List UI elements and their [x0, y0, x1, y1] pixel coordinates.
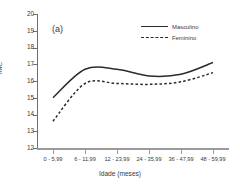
legend-label-masculino: Masculino — [172, 24, 199, 30]
legend-item-masculino: Masculino — [141, 21, 199, 32]
y-tick-label: 12 — [20, 145, 34, 151]
series-line-feminino — [53, 73, 213, 122]
x-tick — [117, 150, 118, 154]
y-tick-label: 17 — [20, 61, 34, 67]
x-tick-label: 12 - 23,99 — [104, 156, 129, 162]
x-tick-label: 48 - 59,99 — [200, 156, 225, 162]
y-tick-label: 20 — [20, 11, 34, 17]
legend: Masculino Feminino — [141, 21, 199, 43]
imc-by-age-chart: (a) 121314151617181920 IMC 0 - 5,996 - 1… — [0, 0, 240, 189]
x-axis-line — [37, 148, 229, 150]
y-tick-label: 18 — [20, 44, 34, 50]
y-axis-title: IMC — [0, 62, 3, 74]
y-tick-label: 15 — [20, 95, 34, 101]
y-tick-label: 19 — [20, 28, 34, 34]
x-tick-label: 24 - 35,99 — [136, 156, 161, 162]
x-tick — [53, 150, 54, 154]
legend-key-dashed-line-icon — [141, 34, 168, 41]
x-tick — [85, 150, 86, 154]
legend-key-solid-line-icon — [141, 23, 168, 30]
x-tick-label: 0 - 5,99 — [44, 156, 63, 162]
legend-label-feminino: Feminino — [172, 35, 196, 41]
y-tick-label: 16 — [20, 78, 34, 84]
y-tick-label: 14 — [20, 111, 34, 117]
x-tick — [213, 150, 214, 154]
series-paths — [37, 14, 229, 148]
x-tick-label: 36 - 47,99 — [168, 156, 193, 162]
legend-item-feminino: Feminino — [141, 32, 199, 43]
x-tick — [149, 150, 150, 154]
x-tick — [181, 150, 182, 154]
x-tick-label: 6 - 11,99 — [74, 156, 96, 162]
x-axis-title: Idade (meses) — [0, 170, 240, 177]
plot-area — [37, 14, 229, 148]
y-tick-label: 13 — [20, 128, 34, 134]
